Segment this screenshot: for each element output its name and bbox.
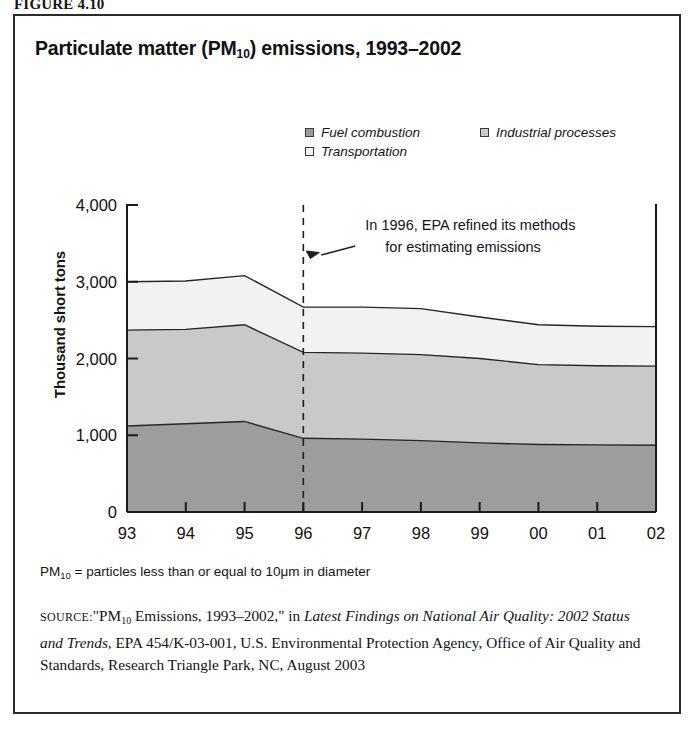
annotation-arrowhead-icon [306, 251, 319, 259]
x-tick-label-98: 98 [412, 524, 430, 542]
y-tick-label-2000: 2,000 [76, 350, 117, 368]
x-tick-label-94: 94 [177, 524, 195, 542]
figure-number: FIGURE 4.10 [14, 0, 105, 13]
y-axis-title: Thousand short tons [51, 235, 68, 415]
source-pm-subscript: 10 [121, 615, 131, 626]
source-note: SOURCE:"PM10 Emissions, 1993–2002," in L… [40, 605, 655, 676]
source-part1: "PM [93, 607, 121, 624]
y-tick-label-1000: 1,000 [76, 426, 117, 444]
y-tick-label-3000: 3,000 [76, 273, 117, 291]
source-label: SOURCE: [40, 610, 93, 624]
annotation-leader-line [321, 246, 355, 255]
x-tick-label-97: 97 [353, 524, 371, 542]
annotation-text-line-1: In 1996, EPA refined its methods [365, 217, 575, 233]
y-tick-label-4000: 4,000 [76, 196, 117, 214]
source-part3: EPA 454/K-03-001, U.S. Environmental Pro… [40, 634, 641, 673]
x-tick-label-93: 93 [118, 524, 136, 542]
x-tick-label-02: 02 [647, 524, 665, 542]
x-tick-label-95: 95 [235, 524, 253, 542]
figure-frame: Particulate matter (PM10) emissions, 199… [13, 14, 681, 714]
x-tick-label-96: 96 [294, 524, 312, 542]
area-series-group [127, 276, 656, 512]
annotation-text-line-2: for estimating emissions [385, 239, 541, 255]
footnote-pm: PM [40, 564, 60, 579]
x-tick-label-01: 01 [588, 524, 606, 542]
x-tick-label-00: 00 [529, 524, 547, 542]
x-tick-label-99: 99 [470, 524, 488, 542]
footnote: PM10 = particles less than or equal to 1… [40, 564, 370, 581]
footnote-pm-subscript: 10 [60, 570, 71, 581]
source-part2: Emissions, 1993–2002," in [131, 607, 304, 624]
y-tick-label-0: 0 [108, 503, 117, 521]
footnote-rest: = particles less than or equal to 10μm i… [71, 564, 370, 579]
